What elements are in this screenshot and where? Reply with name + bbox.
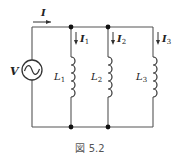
ac-source-icon bbox=[22, 60, 42, 80]
svg-text:L1: L1 bbox=[53, 71, 65, 84]
inductor-icon bbox=[71, 57, 75, 97]
branch-current-label-2: I2 bbox=[116, 33, 126, 46]
svg-text:I2: I2 bbox=[116, 33, 126, 46]
svg-text:I3: I3 bbox=[161, 33, 171, 46]
branch-current-label-3: I3 bbox=[161, 33, 171, 46]
inductor-label-1: L1 bbox=[53, 71, 65, 84]
inductor-label-3: L3 bbox=[135, 71, 147, 84]
svg-text:L2: L2 bbox=[90, 71, 102, 84]
inductor-icon bbox=[108, 57, 112, 97]
figure-caption: 図 5.2 bbox=[75, 143, 104, 154]
svg-text:I1: I1 bbox=[79, 33, 89, 46]
branch-current-arrow-icon bbox=[156, 32, 160, 45]
total-current-arrow-icon bbox=[33, 20, 51, 24]
inductor-icon bbox=[153, 57, 157, 97]
branch-current-arrow-icon bbox=[111, 32, 115, 45]
branch-current-label-1: I1 bbox=[79, 33, 89, 46]
branch-current-arrow-icon bbox=[74, 32, 78, 45]
circuit-diagram: V I L1 L2 L3 I1 I2 I3 bbox=[0, 0, 180, 162]
inductor-label-2: L2 bbox=[90, 71, 102, 84]
total-current-label: I bbox=[40, 7, 46, 18]
source-label: V bbox=[10, 65, 20, 78]
svg-text:L3: L3 bbox=[135, 71, 147, 84]
